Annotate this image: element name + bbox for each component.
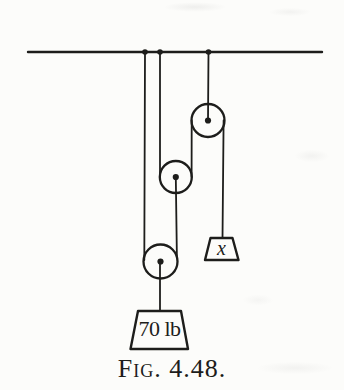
figure-page: 70 lb x Fig. 4.48. [0,0,344,390]
rope-top-pulley-hanger [208,52,209,121]
ceiling-anchor-dot-left [142,49,148,55]
bottom-pulley-axle-dot [157,258,163,264]
ceiling-anchor-dot-right [206,49,212,55]
weight-x-label: x [216,237,226,259]
rope-ceiling-to-bottom-pulley [144,52,145,260]
ceiling-anchor-dot-middle [157,49,163,55]
weight-70lb-label: 70 lb [138,316,181,341]
rope-top-pulley-to-x-weight [223,121,224,240]
middle-pulley-axle-dot [173,174,179,180]
pulley-diagram: 70 lb x [0,0,344,390]
top-pulley-axle-dot [205,117,211,123]
figure-caption: Fig. 4.48. [0,358,344,380]
rope-middle-pulley-to-bottom-pulley [176,177,177,258]
